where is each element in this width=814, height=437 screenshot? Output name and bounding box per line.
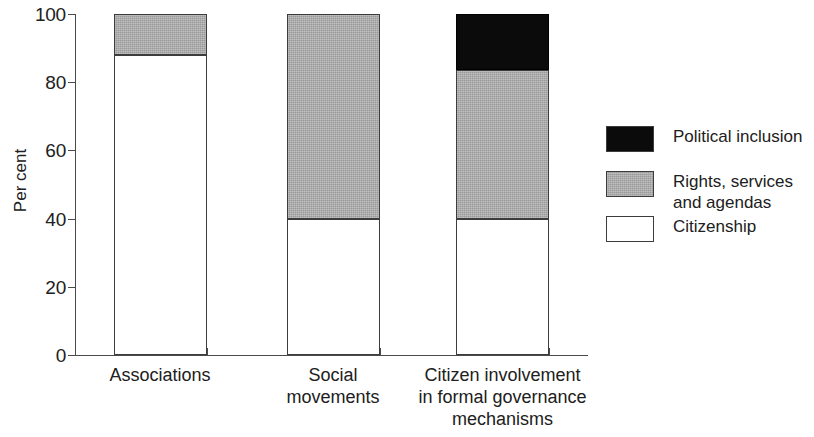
legend-item-rights-services: Rights, services and agendas bbox=[606, 171, 793, 213]
x-axis-line bbox=[75, 355, 588, 356]
legend-label-rights-services: Rights, services and agendas bbox=[673, 171, 793, 213]
x-category-label-social-movements: Social movements bbox=[253, 364, 413, 408]
x-category-label-citizen-involvement-line-1: Citizen involvement bbox=[402, 364, 603, 386]
x-category-label-associations-line-1: Associations bbox=[80, 364, 240, 386]
y-tick-label-60-wrap: 60 bbox=[0, 141, 66, 160]
x-category-label-citizen-involvement-line-3: mechanisms bbox=[402, 408, 603, 430]
legend-swatch-rights-services-icon bbox=[606, 171, 654, 197]
y-tick-label-0-wrap: 0 bbox=[0, 346, 66, 365]
legend-swatch-political-inclusion-icon bbox=[606, 126, 654, 152]
y-tick-label-80: 80 bbox=[22, 73, 66, 92]
y-tick-100 bbox=[68, 14, 76, 15]
y-tick-label-0: 0 bbox=[22, 346, 66, 365]
y-tick-label-20-wrap: 20 bbox=[0, 278, 66, 297]
y-tick-40 bbox=[68, 219, 76, 220]
x-tick-6 bbox=[549, 348, 550, 356]
y-tick-60 bbox=[68, 150, 76, 151]
x-category-label-citizen-involvement-line-2: in formal governance bbox=[402, 386, 603, 408]
legend-item-citizenship: Citizenship bbox=[606, 216, 756, 242]
legend-label-citizenship: Citizenship bbox=[673, 216, 756, 237]
x-category-label-citizen-involvement: Citizen involvement in formal governance… bbox=[402, 364, 603, 430]
x-category-label-social-movements-line-2: movements bbox=[253, 386, 413, 408]
legend-label-political-inclusion: Political inclusion bbox=[673, 126, 802, 147]
stacked-bar-chart: Per cent 100 80 60 40 20 0 bbox=[0, 0, 814, 437]
x-category-label-associations: Associations bbox=[80, 364, 240, 386]
bar-associations-segment-citizenship bbox=[114, 55, 207, 355]
x-tick-2 bbox=[207, 348, 208, 356]
bar-social-movements-segment-rights-services bbox=[287, 14, 380, 219]
bar-social-movements-segment-citizenship bbox=[287, 219, 380, 355]
y-tick-label-20: 20 bbox=[22, 278, 66, 297]
y-tick-label-80-wrap: 80 bbox=[0, 73, 66, 92]
bar-social-movements bbox=[287, 14, 380, 355]
x-category-label-social-movements-line-1: Social bbox=[253, 364, 413, 386]
bar-citizen-involvement bbox=[456, 14, 549, 355]
y-tick-label-100: 100 bbox=[22, 5, 66, 24]
legend-item-political-inclusion: Political inclusion bbox=[606, 126, 802, 152]
bar-citizen-involvement-segment-rights-services bbox=[456, 70, 549, 219]
y-tick-label-40-wrap: 40 bbox=[0, 210, 66, 229]
bar-citizen-involvement-segment-political-inclusion bbox=[456, 14, 549, 70]
bar-citizen-involvement-segment-citizenship bbox=[456, 219, 549, 355]
y-tick-label-100-wrap: 100 bbox=[0, 5, 66, 24]
y-tick-80 bbox=[68, 82, 76, 83]
legend-swatch-citizenship-icon bbox=[606, 216, 654, 242]
bar-associations-segment-rights-services bbox=[114, 14, 207, 55]
x-tick-4 bbox=[380, 348, 381, 356]
bar-associations bbox=[114, 14, 207, 355]
y-axis-line bbox=[75, 14, 76, 355]
y-tick-label-60: 60 bbox=[22, 141, 66, 160]
y-tick-label-40: 40 bbox=[22, 210, 66, 229]
y-tick-20 bbox=[68, 287, 76, 288]
